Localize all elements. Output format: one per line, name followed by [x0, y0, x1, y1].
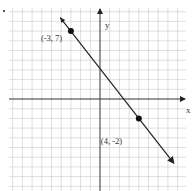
point-label: (-3, 7): [41, 33, 62, 43]
points-layer: (-3, 7)(4, -2): [41, 28, 142, 146]
x-axis-label: x: [186, 105, 191, 115]
data-point: [68, 28, 74, 34]
y-axis-label: y: [105, 20, 110, 30]
data-point: [136, 115, 142, 121]
coordinate-plane: x y (-3, 7)(4, -2): [0, 0, 193, 191]
point-label: (4, -2): [101, 136, 122, 146]
